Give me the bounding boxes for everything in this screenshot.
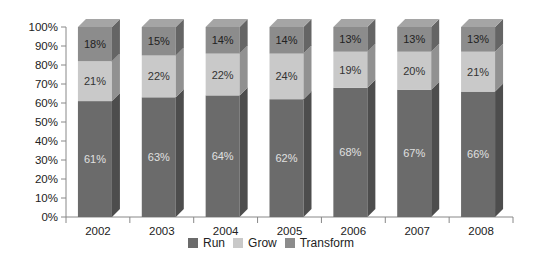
legend-item-grow: Grow: [233, 236, 277, 250]
y-tick-label: 70%: [35, 78, 58, 90]
plot-area: 0%10%20%30%40%50%60%70%80%90%100%61%21%1…: [0, 0, 542, 269]
stacked-bar-chart: 0%10%20%30%40%50%60%70%80%90%100%61%21%1…: [0, 0, 542, 269]
data-label: 13%: [467, 33, 489, 45]
legend-label-transform: Transform: [300, 236, 354, 250]
y-tick-label: 80%: [35, 59, 58, 71]
bar-side: [112, 53, 120, 101]
data-label: 15%: [148, 35, 170, 47]
data-label: 21%: [84, 75, 106, 87]
legend-item-transform: Transform: [285, 236, 354, 250]
bar-side: [495, 84, 503, 217]
data-label: 14%: [212, 34, 234, 46]
bar-side: [176, 48, 184, 98]
y-tick-label: 20%: [35, 173, 58, 185]
bar-side: [495, 44, 503, 92]
bar-side: [112, 93, 120, 217]
data-label: 64%: [212, 150, 234, 162]
data-label: 21%: [467, 66, 489, 78]
data-label: 13%: [403, 33, 425, 45]
bar-group-2004: 64%22%14%: [206, 19, 248, 217]
data-label: 19%: [339, 64, 361, 76]
bar-side: [240, 46, 248, 96]
bar-side: [240, 87, 248, 217]
data-label: 14%: [275, 34, 297, 46]
data-label: 66%: [467, 148, 489, 160]
y-tick-label: 30%: [35, 154, 58, 166]
bar-group-2002: 61%21%18%: [78, 19, 120, 217]
bar-side: [176, 89, 184, 217]
data-label: 67%: [403, 147, 425, 159]
y-tick-label: 0%: [41, 211, 58, 223]
y-tick-label: 90%: [35, 40, 58, 52]
data-label: 68%: [339, 146, 361, 158]
legend-label-run: Run: [203, 236, 225, 250]
bar-group-2003: 63%22%15%: [142, 19, 184, 217]
legend-swatch-transform: [285, 238, 295, 248]
data-label: 24%: [275, 70, 297, 82]
data-label: 62%: [275, 152, 297, 164]
bar-side: [431, 82, 439, 217]
data-label: 22%: [148, 70, 170, 82]
bar-group-2006: 68%19%13%: [333, 19, 375, 217]
bar-side: [431, 44, 439, 90]
data-label: 22%: [212, 69, 234, 81]
y-tick-label: 50%: [35, 116, 58, 128]
y-tick-label: 60%: [35, 97, 58, 109]
y-tick-label: 100%: [29, 21, 58, 33]
data-label: 61%: [84, 153, 106, 165]
bar-group-2007: 67%20%13%: [397, 19, 439, 217]
legend-label-grow: Grow: [248, 236, 277, 250]
bar-group-2008: 66%21%13%: [461, 19, 503, 217]
data-label: 13%: [339, 33, 361, 45]
legend-swatch-grow: [233, 238, 243, 248]
data-label: 18%: [84, 38, 106, 50]
bar-side: [304, 46, 312, 100]
data-label: 63%: [148, 151, 170, 163]
bar-side: [367, 80, 375, 217]
chart-legend: Run Grow Transform: [0, 236, 542, 250]
legend-swatch-run: [188, 238, 198, 248]
y-tick-label: 10%: [35, 192, 58, 204]
bar-group-2005: 62%24%14%: [270, 19, 312, 217]
legend-item-run: Run: [188, 236, 225, 250]
data-label: 20%: [403, 65, 425, 77]
bar-side: [304, 91, 312, 217]
y-tick-label: 40%: [35, 135, 58, 147]
